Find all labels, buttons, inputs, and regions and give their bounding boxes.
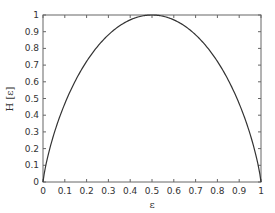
x-tick-label: 0.2 — [79, 186, 93, 196]
x-tick-label: 1 — [258, 186, 264, 196]
y-tick-label: 0.8 — [25, 43, 40, 53]
y-tick-label: 0.9 — [25, 27, 40, 37]
x-tick-label: 0 — [40, 186, 46, 196]
x-tick-label: 0.8 — [210, 186, 225, 196]
y-tick-label: 1 — [33, 10, 39, 20]
x-tick-label: 0.3 — [101, 186, 115, 196]
y-tick-label: 0.3 — [25, 127, 39, 137]
y-tick-label: 0.1 — [25, 160, 39, 170]
y-tick-label: 0.2 — [25, 144, 39, 154]
y-axis-label: H [ε] — [4, 86, 15, 111]
y-tick-label: 0.5 — [25, 94, 39, 104]
y-tick-label: 0.4 — [25, 110, 40, 120]
y-tick-label: 0.6 — [25, 77, 40, 87]
x-axis-label: ε — [149, 199, 154, 210]
x-tick-label: 0.4 — [123, 186, 138, 196]
entropy-curve — [43, 15, 261, 182]
x-tick-label: 0.5 — [145, 186, 159, 196]
axes-frame — [43, 15, 261, 182]
x-tick-label: 0.9 — [232, 186, 247, 196]
y-tick-label: 0 — [33, 177, 39, 187]
x-tick-label: 0.1 — [58, 186, 72, 196]
y-tick-label: 0.7 — [25, 60, 39, 70]
x-tick-label: 0.6 — [167, 186, 182, 196]
x-tick-label: 0.7 — [188, 186, 202, 196]
plot-area: 00.10.20.30.40.50.60.70.80.9100.10.20.30… — [25, 10, 264, 196]
chart: 00.10.20.30.40.50.60.70.80.9100.10.20.30… — [0, 0, 275, 213]
